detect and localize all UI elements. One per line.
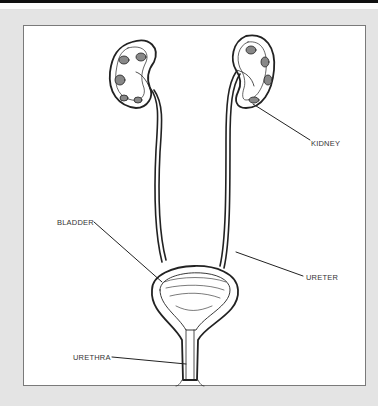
- right-kidney: [233, 35, 274, 108]
- ureter-leader-line: [236, 252, 303, 276]
- bladder: [152, 266, 238, 380]
- left-ureter: [150, 88, 166, 262]
- bladder-label: BLADDER: [57, 218, 94, 227]
- bladder-leader-line: [94, 222, 162, 282]
- kidney-leader-line: [253, 104, 310, 140]
- ureter-label: URETER: [306, 273, 338, 282]
- urinary-system-illustration: [0, 0, 378, 409]
- kidney-label: KIDNEY: [311, 139, 340, 148]
- left-kidney: [110, 40, 156, 108]
- urethra-label: URETHRA: [73, 353, 111, 362]
- urethra-leader-line: [112, 357, 186, 364]
